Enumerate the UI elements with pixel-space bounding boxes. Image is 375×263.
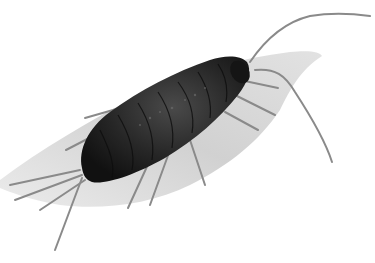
- isopod-drawing: [0, 0, 375, 263]
- illustration: [0, 0, 375, 263]
